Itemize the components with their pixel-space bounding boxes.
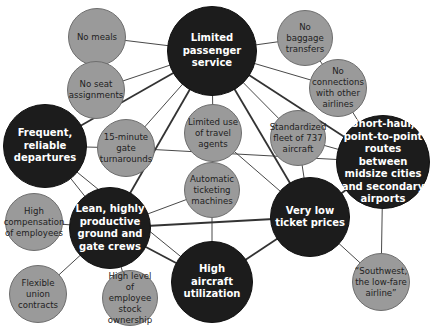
node-label: Standardized fleet of 737 aircraft bbox=[267, 122, 330, 155]
node-label: Limited passenger service bbox=[180, 32, 245, 70]
node-employee-stock-ownership: High level of employee stock ownership bbox=[102, 270, 158, 326]
node-limited-travel-agents: Limited use of travel agents bbox=[184, 104, 242, 162]
node-standardized-fleet: Standardized fleet of 737 aircraft bbox=[270, 110, 326, 166]
node-label: 15-minute gate turnarounds bbox=[97, 132, 155, 165]
node-label: No seat assignments bbox=[66, 79, 126, 101]
node-label: “Southwest, the low-fare airline” bbox=[352, 266, 410, 299]
node-label: No baggage transfers bbox=[278, 22, 332, 55]
node-very-low-ticket-prices: Very low ticket prices bbox=[270, 177, 350, 257]
node-short-haul-routes: Short-haul, point-to-point routes betwee… bbox=[336, 115, 430, 209]
node-label: Limited use of travel agents bbox=[185, 117, 241, 150]
node-label: Lean, highly productive ground and gate … bbox=[72, 203, 147, 253]
node-label: High level of employee stock ownership bbox=[103, 271, 157, 326]
node-label: High compensation of employees bbox=[1, 206, 68, 239]
node-label: High aircraft utilization bbox=[181, 263, 244, 301]
node-label: No meals bbox=[74, 32, 120, 43]
node-label: Flexible union contracts bbox=[15, 278, 61, 311]
node-frequent-reliable-departures: Frequent, reliable departures bbox=[3, 104, 87, 188]
node-no-connections: No connections with other airlines bbox=[309, 59, 367, 117]
node-no-meals: No meals bbox=[68, 8, 126, 66]
node-southwest-low-fare: “Southwest, the low-fare airline” bbox=[352, 253, 410, 311]
node-limited-passenger-service: Limited passenger service bbox=[167, 6, 257, 96]
node-label: Very low ticket prices bbox=[272, 205, 348, 230]
node-gate-turnarounds: 15-minute gate turnarounds bbox=[97, 119, 155, 177]
node-label: Automatic ticketing machines bbox=[187, 174, 237, 207]
node-high-compensation: High compensation of employees bbox=[5, 193, 63, 251]
node-label: Short-haul, point-to-point routes betwee… bbox=[337, 118, 429, 206]
node-label: No connections with other airlines bbox=[309, 66, 367, 110]
node-flexible-union-contracts: Flexible union contracts bbox=[9, 265, 67, 323]
node-no-baggage-transfers: No baggage transfers bbox=[277, 10, 333, 66]
node-lean-crews: Lean, highly productive ground and gate … bbox=[69, 187, 151, 269]
node-label: Frequent, reliable departures bbox=[11, 127, 79, 165]
node-high-aircraft-utilization: High aircraft utilization bbox=[171, 241, 253, 323]
node-no-seat-assignments: No seat assignments bbox=[67, 61, 125, 119]
node-automatic-ticketing: Automatic ticketing machines bbox=[184, 162, 240, 218]
